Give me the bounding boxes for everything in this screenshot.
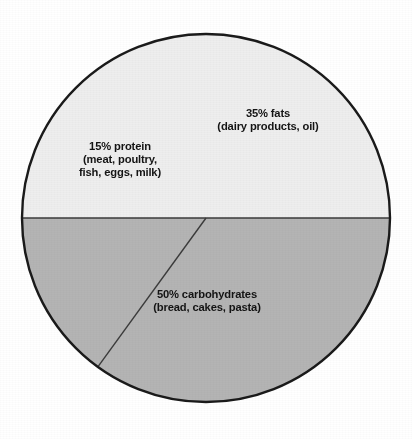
- pie-chart-figure: 35% fats (dairy products, oil) 15% prote…: [0, 0, 412, 439]
- pie-chart-svg: [0, 0, 412, 439]
- pie-slice-carbohydrates[interactable]: [22, 34, 390, 218]
